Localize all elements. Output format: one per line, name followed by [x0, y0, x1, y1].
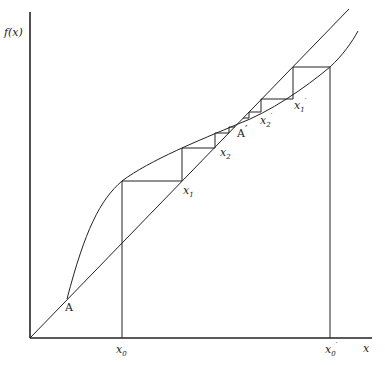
cobweb-diagram: f(x) x A A′ x0 x0′ x1 x2 x1′ x2′	[0, 0, 385, 365]
x-axis-label: x	[363, 342, 370, 355]
y-axis-label: f(x)	[3, 26, 23, 39]
x0-label: x0	[116, 343, 127, 358]
x2-label: x2	[220, 146, 231, 161]
function-curve	[67, 31, 358, 299]
left-cobweb	[122, 127, 235, 338]
right-cobweb	[243, 67, 330, 338]
x1-label: x1	[183, 184, 194, 199]
point-a-label: A	[64, 301, 74, 314]
point-a-prime-label: A′	[236, 123, 248, 140]
x1-prime-label: x1′	[294, 97, 307, 114]
diagonal-line	[30, 9, 349, 338]
x0-prime-label: x0′	[325, 341, 338, 358]
x2-prime-label: x2′	[260, 112, 273, 129]
